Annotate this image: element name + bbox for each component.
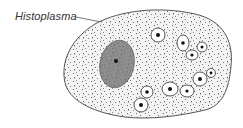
nucleolus (114, 59, 118, 63)
histoplasma-organism (193, 72, 207, 86)
histoplasma-organism (207, 69, 216, 78)
histoplasma-organism (141, 86, 153, 98)
histoplasma-organism (134, 98, 148, 112)
histoplasma-organism (186, 50, 198, 60)
histoplasma-organism (151, 28, 165, 42)
histoplasma-organism (180, 85, 194, 97)
histoplasma-organism (197, 42, 207, 52)
histoplasma-organism (177, 35, 189, 51)
histoplasma-organism (162, 82, 178, 96)
cell-illustration (0, 0, 243, 128)
